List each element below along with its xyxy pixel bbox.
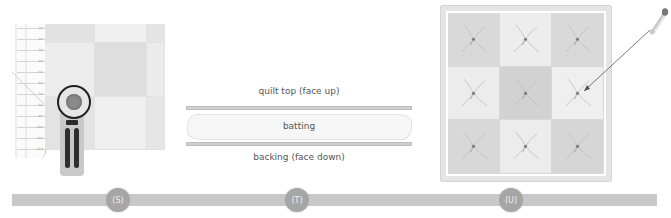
quilt-block <box>448 120 500 174</box>
rotary-cutter-icon <box>57 85 91 119</box>
backing-layer <box>186 142 412 146</box>
backing-label: backing (face down) <box>186 152 412 162</box>
quilt-top-layer <box>186 106 412 110</box>
quilt-top-label: quilt top (face up) <box>186 86 412 96</box>
quilt-block <box>448 67 500 121</box>
cutter-neck <box>66 120 78 125</box>
safety-pin-icon <box>524 145 527 148</box>
fabric-square <box>95 24 147 43</box>
stitch-motif-icon <box>552 120 603 173</box>
batting-label: batting <box>186 121 412 131</box>
step-t-marker: (T) <box>285 188 309 212</box>
stitch-motif-icon <box>448 13 499 66</box>
step-s-marker: (S) <box>106 188 130 212</box>
safety-pin-icon <box>524 91 527 94</box>
pin-callout <box>570 0 671 100</box>
safety-pin-icon <box>472 145 475 148</box>
step-u-marker: (U) <box>499 188 523 212</box>
safety-pin-icon <box>524 38 527 41</box>
fabric-square <box>147 43 165 97</box>
safety-pin-icon <box>472 91 475 94</box>
safety-pin-icon <box>576 145 579 148</box>
cutter-hub <box>66 94 82 110</box>
quilt-block <box>552 120 604 174</box>
safety-pin-icon <box>650 8 668 34</box>
handle-grip-right <box>74 128 79 168</box>
quilt-block <box>500 67 552 121</box>
stitch-motif-icon <box>500 120 551 173</box>
fabric-square <box>95 43 147 97</box>
safety-pin-icon <box>472 38 475 41</box>
stitch-motif-icon <box>500 13 551 66</box>
quilt-block <box>500 120 552 174</box>
fabric-square <box>95 97 147 150</box>
stitch-motif-icon <box>500 67 551 120</box>
stitch-motif-icon <box>448 67 499 120</box>
stitch-motif-icon <box>448 120 499 173</box>
quilt-block <box>448 13 500 67</box>
fabric-square <box>147 24 165 43</box>
handle-grip-left <box>65 128 70 168</box>
fabric-square <box>147 97 165 150</box>
fabric-square <box>45 24 95 43</box>
quilt-block <box>500 13 552 67</box>
